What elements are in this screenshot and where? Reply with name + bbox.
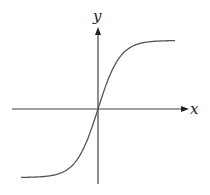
y-axis-label: y <box>92 7 102 25</box>
sigmoid-diagram: x y <box>0 0 210 195</box>
x-axis-arrow-icon <box>181 106 189 112</box>
x-axis-label: x <box>190 100 199 118</box>
y-axis-arrow-icon <box>95 27 101 35</box>
